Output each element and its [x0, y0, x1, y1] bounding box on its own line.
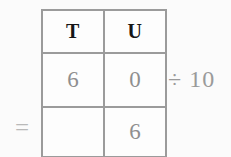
cell-answer-tens[interactable]	[42, 107, 104, 157]
divide-by-ten-annotation: ÷ 10	[168, 64, 215, 94]
place-value-division-worksheet: = T U 6 0 6 ÷ 10	[0, 0, 231, 157]
cell-answer-units[interactable]: 6	[104, 107, 166, 157]
equals-sign: =	[10, 115, 34, 141]
table-row-answer: 6	[42, 107, 166, 157]
cell-dividend-units[interactable]: 0	[104, 53, 166, 107]
table-header-row: T U	[42, 10, 166, 53]
cell-dividend-tens[interactable]: 6	[42, 53, 104, 107]
column-header-tens: T	[42, 10, 104, 53]
column-header-units: U	[104, 10, 166, 53]
place-value-table: T U 6 0 6	[41, 9, 167, 157]
table-row-dividend: 6 0	[42, 53, 166, 107]
